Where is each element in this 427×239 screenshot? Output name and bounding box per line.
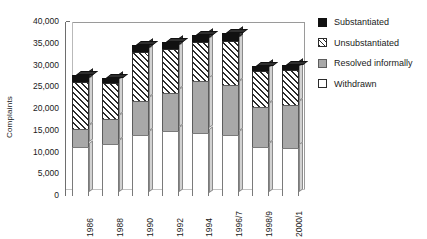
bar-segment[interactable]: [102, 83, 119, 119]
bar-segment[interactable]: [282, 105, 299, 149]
legend-item-label: Resolved informally: [334, 58, 413, 68]
bar-segment-side: [239, 34, 243, 81]
legend-item[interactable]: Unsubstantiated: [318, 38, 424, 48]
bar-group[interactable]: [282, 22, 299, 196]
bar-segment[interactable]: [252, 107, 269, 147]
bar-segment-side: [239, 78, 243, 131]
stacked-bar[interactable]: [282, 22, 299, 196]
x-axis-label: 1998/9: [264, 211, 274, 237]
bar-segment[interactable]: [162, 131, 179, 196]
bar-top-cap: [136, 41, 158, 45]
legend-swatch-icon: [318, 18, 327, 27]
y-axis-tick-label: 0: [54, 190, 59, 200]
bar-segment-side: [209, 35, 213, 77]
y-axis-tick-label: 40,000: [33, 16, 59, 26]
stacked-bar[interactable]: [162, 22, 179, 196]
legend-item[interactable]: Resolved informally: [318, 58, 424, 68]
bar-segment[interactable]: [192, 35, 209, 42]
bar-top-cap: [106, 74, 128, 78]
bar-segment[interactable]: [102, 119, 119, 144]
y-axis-tick-label: 25,000: [33, 81, 59, 91]
bars-layer: [66, 22, 305, 196]
bar-segment[interactable]: [132, 135, 149, 196]
bar-segment-side: [239, 128, 243, 192]
bar-top-cap: [166, 38, 188, 42]
bar-segment[interactable]: [222, 33, 239, 41]
bar-segment[interactable]: [282, 65, 299, 70]
bar-segment[interactable]: [252, 147, 269, 196]
stacked-bar[interactable]: [72, 22, 89, 196]
legend-item-label: Substantiated: [334, 17, 389, 27]
bar-segment-side: [209, 126, 213, 192]
x-axis: 198619881990199219941996/71998/92000/1: [66, 200, 305, 239]
y-axis-tick-label: 5,000: [38, 168, 59, 178]
bar-segment-side: [179, 124, 183, 192]
bar-group[interactable]: [192, 22, 209, 196]
x-axis-label: 1988: [115, 218, 125, 237]
bar-segment-side: [119, 137, 123, 192]
bar-segment[interactable]: [72, 129, 89, 146]
bar-segment-side: [149, 128, 153, 192]
stacked-bar[interactable]: [102, 22, 119, 196]
bar-segment-side: [269, 64, 273, 103]
bar-segment-side: [119, 112, 123, 139]
y-axis-tick-label: 35,000: [33, 38, 59, 48]
bar-segment[interactable]: [72, 82, 89, 129]
bar-segment-side: [269, 140, 273, 192]
bar-segment[interactable]: [282, 70, 299, 105]
legend-item[interactable]: Withdrawn: [318, 79, 424, 89]
bar-segment[interactable]: [192, 42, 209, 82]
bar-segment[interactable]: [72, 75, 89, 82]
bar-segment[interactable]: [252, 71, 269, 107]
bar-segment[interactable]: [72, 147, 89, 196]
bar-segment[interactable]: [192, 133, 209, 197]
stacked-bar[interactable]: [252, 22, 269, 196]
bar-top-cap: [226, 29, 248, 33]
stacked-bar[interactable]: [192, 22, 209, 196]
legend-item-label: Unsubstantiated: [334, 38, 399, 48]
legend-item[interactable]: Substantiated: [318, 17, 424, 27]
y-axis-tick-label: 10,000: [33, 147, 59, 157]
legend-item-label: Withdrawn: [334, 79, 377, 89]
bar-segment[interactable]: [252, 66, 269, 71]
legend: SubstantiatedUnsubstantiatedResolved inf…: [318, 17, 424, 99]
bar-segment[interactable]: [282, 148, 299, 196]
bar-segment[interactable]: [162, 49, 179, 93]
bar-group[interactable]: [252, 22, 269, 196]
bar-segment-side: [209, 74, 213, 128]
bar-segment-side: [89, 76, 93, 126]
bar-group[interactable]: [132, 22, 149, 196]
bar-segment[interactable]: [222, 85, 239, 135]
y-axis-tick-label: 15,000: [33, 125, 59, 135]
bar-segment[interactable]: [132, 101, 149, 135]
stacked-bar-chart: Complaints 40,00035,00030,00025,00020,00…: [0, 0, 427, 239]
bar-segment-side: [119, 76, 123, 115]
legend-swatch-icon: [318, 59, 327, 68]
x-axis-label: 1996/7: [234, 211, 244, 237]
bar-segment[interactable]: [102, 144, 119, 196]
bar-segment[interactable]: [102, 78, 119, 83]
bar-group[interactable]: [72, 22, 89, 196]
bar-segment[interactable]: [222, 41, 239, 85]
bar-group[interactable]: [102, 22, 119, 196]
bar-segment-side: [89, 140, 93, 192]
stacked-bar[interactable]: [222, 22, 239, 196]
bar-group[interactable]: [162, 22, 179, 196]
bar-top-cap: [196, 31, 218, 35]
bar-segment-side: [179, 86, 183, 127]
bar-segment[interactable]: [222, 135, 239, 196]
bar-group[interactable]: [222, 22, 239, 196]
bar-top-cap: [256, 62, 278, 66]
bar-segment[interactable]: [132, 45, 149, 52]
bar-segment-side: [299, 98, 303, 144]
bar-segment[interactable]: [192, 81, 209, 132]
bar-segment-side: [269, 100, 273, 143]
bar-segment-side: [179, 43, 183, 89]
bar-segment[interactable]: [162, 93, 179, 131]
legend-swatch-icon: [318, 38, 327, 47]
stacked-bar[interactable]: [132, 22, 149, 196]
bar-segment-side: [299, 141, 303, 192]
bar-segment[interactable]: [162, 42, 179, 49]
bar-segment-side: [149, 94, 153, 131]
bar-segment[interactable]: [132, 52, 149, 101]
